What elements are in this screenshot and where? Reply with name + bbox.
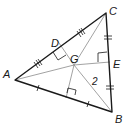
triangle-edges xyxy=(15,13,112,112)
segment-value-label: 2 xyxy=(91,76,98,87)
segment-G-F xyxy=(66,65,74,98)
triangle-ABC xyxy=(15,13,112,112)
label-D: D xyxy=(51,37,59,49)
right-angle-markers xyxy=(53,52,107,95)
right-angle-D xyxy=(53,52,66,60)
segment-G-B xyxy=(74,65,112,112)
label-C: C xyxy=(109,5,117,17)
segment-A-G xyxy=(15,65,74,80)
label-G: G xyxy=(70,53,79,65)
triangle-diagram: A B C D E G 2 xyxy=(0,0,132,137)
label-E: E xyxy=(113,58,121,70)
label-A: A xyxy=(2,68,10,80)
inner-segments xyxy=(15,13,112,112)
segment-G-E xyxy=(74,62,110,65)
tick-marks xyxy=(34,28,114,107)
segment-C-B-median xyxy=(74,13,106,65)
right-angle-E xyxy=(98,52,107,62)
label-B: B xyxy=(115,113,122,125)
